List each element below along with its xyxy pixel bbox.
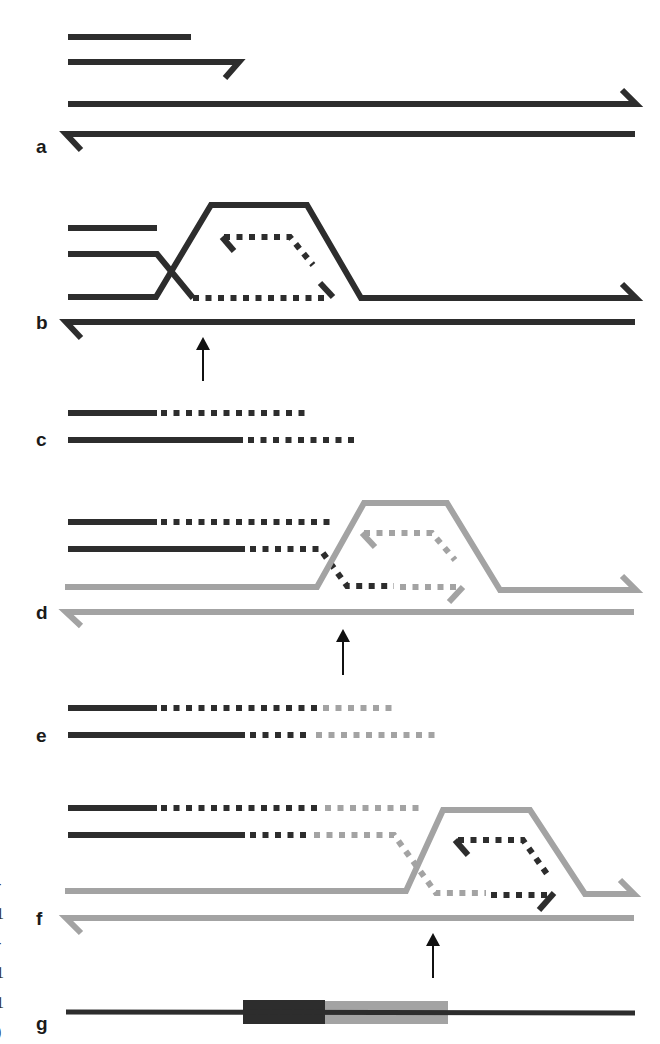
strands-layer: [65, 37, 636, 1013]
arrows-layer: [196, 337, 440, 978]
panel-label-g: g: [36, 1014, 48, 1033]
panel-d-strand: [66, 612, 634, 626]
panel-f-arrow-up-icon: [426, 933, 440, 978]
panel-a-strand: [68, 90, 636, 104]
cropped-text-fragment: 1: [0, 906, 4, 922]
panel-b-strand: [66, 322, 635, 338]
panel-label-d: d: [36, 603, 48, 622]
panel-f-dashed-strand: [458, 840, 547, 874]
cropped-text-fragment: ): [0, 1024, 1, 1040]
panel-label-b: b: [36, 313, 48, 332]
panel-b-arrow-up-icon: [196, 337, 210, 381]
cropped-text-fragment: -: [0, 935, 1, 951]
panel-a-strand: [68, 62, 239, 78]
panel-f-strand: [66, 918, 634, 933]
panel-label-c: c: [36, 430, 47, 449]
panel-d-dashed-strand: [364, 533, 455, 560]
panel-label-f: f: [36, 909, 42, 928]
cropped-text-fragment: 1: [0, 965, 4, 981]
panel-g-strand: [66, 1012, 635, 1013]
panel-d-arrow-up-icon: [336, 629, 350, 675]
cropped-text-fragment: 1: [0, 995, 4, 1011]
panel-label-a: a: [36, 137, 47, 156]
cropped-text-fragment: -: [0, 876, 1, 892]
panel-f-strand: [65, 810, 634, 894]
panel-label-e: e: [36, 726, 47, 745]
strand-invasion-diagram: [0, 0, 660, 1044]
panel-a-strand: [66, 134, 635, 150]
panel-b-dashed-strand: [224, 237, 313, 265]
panel-b-strand: [68, 254, 193, 298]
panel-b-strand: [320, 283, 333, 297]
